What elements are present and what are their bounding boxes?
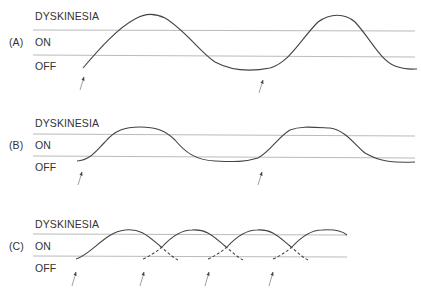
dose-arrow-icon [259,80,263,93]
drug-response-rise-dashed [208,247,227,259]
drug-response-curve [292,230,347,247]
drug-response-decline-dashed [290,246,308,260]
panel-a [33,14,417,93]
dose-arrow-icon [205,272,209,286]
drug-response-curve [162,230,225,247]
drug-response-rise-dashed [143,247,162,259]
dose-arrow-icon [140,272,144,286]
panel-c [33,230,347,286]
dose-arrow-icon [78,172,82,185]
dose-arrow-icon [80,77,84,90]
panel-b [33,127,415,185]
drug-response-decline-dashed [225,246,243,260]
dose-arrow-icon [258,172,262,185]
dose-arrow-icon [72,272,76,286]
drug-response-curve [83,14,417,70]
dose-arrow-icon [269,272,273,286]
drug-response-curve [227,230,290,247]
dyskinesia-threshold-line [33,134,415,136]
motor-fluctuation-diagram [0,0,421,290]
drug-response-decline-dashed [160,246,178,260]
on-threshold-line [33,55,415,57]
dyskinesia-threshold-line [33,30,415,31]
dyskinesia-threshold-line [33,234,347,235]
